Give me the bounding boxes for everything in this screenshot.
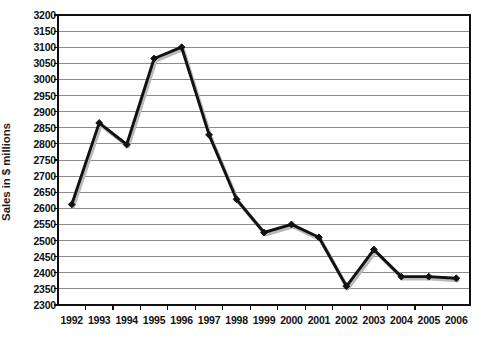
line-chart: Sales in $ millions 32003150310030503000… bbox=[0, 0, 488, 344]
x-tick-label: 1993 bbox=[88, 314, 111, 326]
x-tick-label: 1997 bbox=[198, 314, 221, 326]
x-tick-label: 2000 bbox=[280, 314, 303, 326]
x-tick-label: 2004 bbox=[390, 314, 413, 326]
x-tick-label: 1994 bbox=[115, 314, 138, 326]
x-tick-label: 1999 bbox=[253, 314, 276, 326]
x-tick-label: 1992 bbox=[60, 314, 83, 326]
x-tick-label: 1996 bbox=[170, 314, 193, 326]
x-tick-label: 2002 bbox=[335, 314, 358, 326]
x-tick-label: 2006 bbox=[445, 314, 468, 326]
x-tick-label: 1995 bbox=[143, 314, 166, 326]
x-tick-label: 2003 bbox=[363, 314, 386, 326]
x-tick-label: 2001 bbox=[308, 314, 331, 326]
x-axis-tick-labels: 1992199319941995199619971998199920002001… bbox=[0, 0, 488, 344]
x-tick-label: 1998 bbox=[225, 314, 248, 326]
x-tick-label: 2005 bbox=[418, 314, 441, 326]
